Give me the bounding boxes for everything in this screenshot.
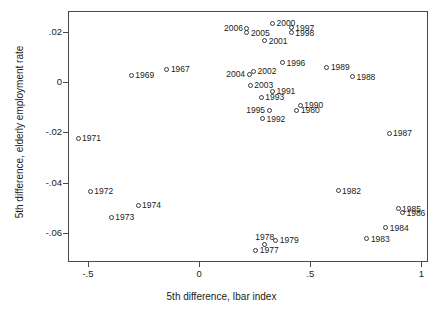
x-tick-label: 0 bbox=[169, 269, 229, 279]
y-tick-mark bbox=[63, 233, 68, 234]
data-point-label: 1987 bbox=[393, 129, 412, 138]
data-point-label: 1988 bbox=[356, 72, 375, 81]
x-axis-title: 5th difference, Ibar index bbox=[0, 291, 443, 303]
x-tick-label: -.5 bbox=[58, 269, 118, 279]
data-point-marker bbox=[387, 131, 392, 136]
data-point-label: 2002 bbox=[258, 67, 277, 76]
data-point-marker bbox=[248, 83, 253, 88]
x-tick-label: .5 bbox=[280, 269, 340, 279]
data-point-label: 1984 bbox=[390, 223, 409, 232]
data-point-marker bbox=[247, 72, 252, 77]
x-tick-mark bbox=[421, 262, 422, 267]
y-tick-label: -.02 bbox=[46, 127, 62, 137]
data-point-label: 2004 bbox=[226, 70, 245, 79]
data-point-marker bbox=[109, 215, 114, 220]
data-point-marker bbox=[336, 188, 341, 193]
data-point-label: 1983 bbox=[371, 234, 390, 243]
data-point-label: 1972 bbox=[94, 187, 113, 196]
data-point-label: 1998 bbox=[295, 28, 314, 37]
data-point-label: 1978 bbox=[255, 233, 274, 242]
data-point-marker bbox=[88, 189, 93, 194]
data-point-label: 1992 bbox=[266, 114, 285, 123]
data-point-label: 1969 bbox=[135, 71, 154, 80]
data-point-marker bbox=[270, 21, 275, 26]
data-point-marker bbox=[298, 103, 303, 108]
x-tick-mark bbox=[88, 262, 89, 267]
data-point-label: 2003 bbox=[254, 81, 273, 90]
data-point-marker bbox=[136, 203, 141, 208]
scatter-chart: .020-.02-.04-.06 -.50.51 196719691971197… bbox=[0, 0, 443, 314]
data-point-label: 1990 bbox=[304, 101, 323, 110]
data-point-label: 2006 bbox=[224, 24, 243, 33]
plot-area bbox=[68, 11, 428, 262]
data-point-label: 1989 bbox=[331, 63, 350, 72]
y-tick-mark bbox=[63, 132, 68, 133]
data-point-marker bbox=[267, 108, 272, 113]
data-point-label: 1982 bbox=[342, 186, 361, 195]
y-tick-mark bbox=[63, 183, 68, 184]
data-point-label: 1979 bbox=[280, 236, 299, 245]
data-point-marker bbox=[289, 30, 294, 35]
y-tick-mark bbox=[63, 82, 68, 83]
data-point-marker bbox=[76, 136, 81, 141]
data-point-marker bbox=[251, 69, 256, 74]
y-tick-mark bbox=[63, 32, 68, 33]
data-point-label: 2000 bbox=[276, 19, 295, 28]
x-tick-mark bbox=[310, 262, 311, 267]
x-tick-mark bbox=[199, 262, 200, 267]
y-tick-label: 0 bbox=[57, 77, 62, 87]
data-point-label: 2001 bbox=[269, 36, 288, 45]
data-point-label: 1971 bbox=[82, 134, 101, 143]
data-point-label: 1995 bbox=[246, 106, 265, 115]
data-point-label: 1977 bbox=[260, 246, 279, 255]
x-tick-label: 1 bbox=[391, 269, 443, 279]
data-point-marker bbox=[259, 95, 264, 100]
y-tick-label: -.04 bbox=[46, 178, 62, 188]
data-point-label: 1996 bbox=[286, 58, 305, 67]
y-tick-label: -.06 bbox=[46, 228, 62, 238]
data-point-label: 2005 bbox=[251, 28, 270, 37]
data-point-label: 1967 bbox=[171, 65, 190, 74]
data-point-label: 1986 bbox=[406, 208, 425, 217]
data-point-marker bbox=[129, 73, 134, 78]
data-point-label: 1974 bbox=[142, 201, 161, 210]
data-point-marker bbox=[253, 248, 258, 253]
y-axis-title: 5th difference, elderly employment rate bbox=[14, 7, 26, 258]
y-tick-label: .02 bbox=[49, 27, 62, 37]
data-point-label: 1993 bbox=[265, 93, 284, 102]
data-point-label: 1973 bbox=[115, 213, 134, 222]
